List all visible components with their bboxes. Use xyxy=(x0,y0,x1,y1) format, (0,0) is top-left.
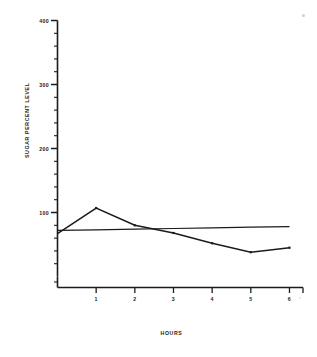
data-point-marker xyxy=(250,251,252,253)
x-axis-tick-label: 5 xyxy=(245,296,257,302)
x-axis-tick-label: 6 xyxy=(283,296,295,302)
y-axis-tick-label: 400 xyxy=(27,18,49,24)
data-point-marker xyxy=(211,242,213,244)
x-axis-tick-label: 2 xyxy=(129,296,141,302)
data-point-marker xyxy=(172,232,174,234)
x-axis-tick-label: 3 xyxy=(167,296,179,302)
chart-plot-area xyxy=(0,0,317,357)
series-line-1 xyxy=(58,227,290,231)
chart-figure: SUGAR PERCENT LEVEL HOURS 100200300400 1… xyxy=(0,0,317,357)
data-point-marker xyxy=(134,224,136,226)
data-point-marker xyxy=(288,247,290,249)
scan-speck xyxy=(302,14,305,17)
scan-speck xyxy=(299,297,301,299)
x-axis-tick-label: 1 xyxy=(90,296,102,302)
y-axis-tick-label: 100 xyxy=(27,210,49,216)
x-axis-tick-label: 4 xyxy=(206,296,218,302)
y-axis-tick-label: 300 xyxy=(27,82,49,88)
x-axis-title: HOURS xyxy=(13,330,317,336)
y-axis-tick-label: 200 xyxy=(27,146,49,152)
data-point-marker xyxy=(95,207,97,209)
